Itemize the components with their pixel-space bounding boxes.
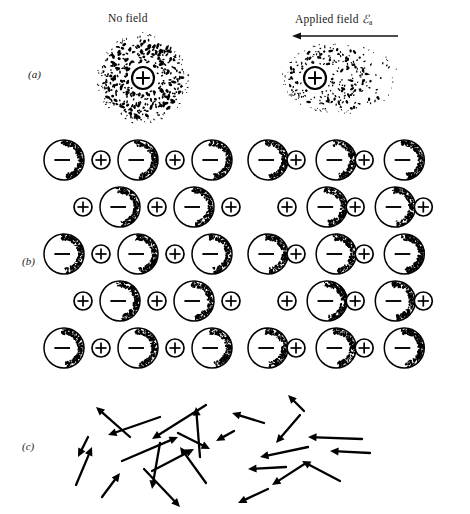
panel-c-orientation-polarization	[0, 385, 470, 514]
figure-canvas: No field Applied field ℰa (a) (b) (c)	[0, 0, 470, 514]
column-title-applied-field: Applied field ℰa	[295, 12, 372, 27]
field-symbol-script-e: ℰ	[362, 13, 369, 25]
column-title-no-field: No field	[108, 12, 148, 24]
applied-field-text: Applied field	[295, 13, 359, 25]
panel-b-ionic-polarization	[0, 138, 470, 378]
panel-a-electronic-polarization	[0, 30, 470, 134]
